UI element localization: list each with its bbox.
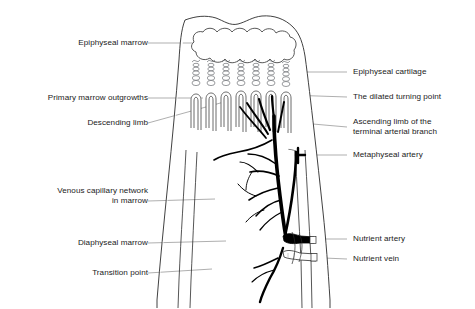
bone-vascular-diagram: Epiphyseal marrow Primary marrow outgrow… — [0, 0, 475, 309]
cartilage-column — [192, 60, 200, 86]
label-dilated-turning-point: The dilated turning point — [353, 92, 475, 102]
label-diaphyseal-marrow: Diaphyseal marrow — [22, 238, 148, 248]
label-nutrient-artery: Nutrient artery — [353, 234, 473, 244]
label-nutrient-vein: Nutrient vein — [353, 254, 473, 264]
cartilage-column — [222, 60, 230, 86]
descending-trunk-branch — [254, 258, 278, 268]
capillary-loops — [191, 91, 291, 133]
label-metaphyseal-artery: Metaphyseal artery — [353, 150, 473, 160]
descending-trunk — [260, 248, 283, 302]
marrow-subbranch-3 — [246, 210, 264, 222]
cartilage-column — [237, 60, 245, 86]
leader-diaphyseal-marrow — [148, 241, 226, 243]
marrow-branch-5 — [260, 212, 282, 230]
cartilage-column — [252, 60, 260, 86]
cartilage-column — [207, 60, 215, 86]
cartilage-column — [267, 60, 275, 86]
leader-transition-point — [148, 269, 212, 273]
label-ascending-limb: Ascending limb of the terminal arterial … — [353, 117, 475, 137]
label-transition-point: Transition point — [22, 268, 148, 278]
label-epiphyseal-marrow: Epiphyseal marrow — [12, 38, 148, 48]
label-descending-limb: Descending limb — [22, 118, 148, 128]
label-epiphyseal-cartilage: Epiphyseal cartilage — [353, 67, 473, 77]
leader-venous-capillary-network — [148, 199, 215, 201]
marrow-subbranch-4 — [246, 172, 252, 190]
epiphyseal-marrow-lobes — [192, 28, 297, 63]
label-venous-capillary-network: Venous capillary network in marrow — [12, 186, 148, 206]
label-primary-marrow-outgrowths: Primary marrow outgrowths — [2, 93, 148, 103]
marrow-subbranch-2 — [238, 184, 256, 196]
